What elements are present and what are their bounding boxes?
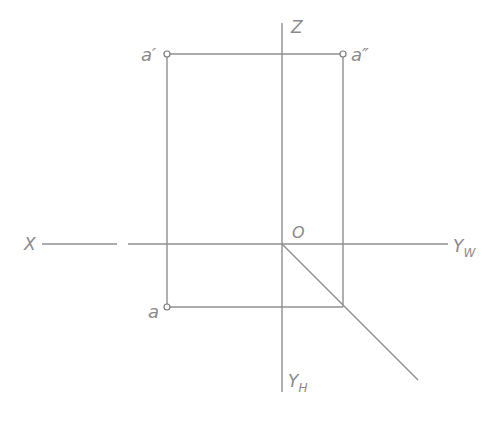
point-a-front-marker — [164, 51, 170, 57]
point-a-side-marker — [340, 51, 346, 57]
projection-diagram: Z X O YW YH a′ a″ a — [0, 0, 491, 425]
point-a-front-label: a′ — [141, 44, 156, 65]
yh-axis-label: YH — [288, 371, 307, 395]
yw-axis-label: YW — [453, 236, 476, 260]
point-a-top-label: a — [148, 301, 159, 322]
point-a-top-marker — [164, 304, 170, 310]
x-axis-label: X — [23, 234, 36, 254]
point-a-side-label: a″ — [351, 44, 369, 65]
miter-45-degree-line — [282, 244, 418, 380]
z-axis-label: Z — [290, 17, 303, 37]
origin-label: O — [292, 223, 305, 242]
